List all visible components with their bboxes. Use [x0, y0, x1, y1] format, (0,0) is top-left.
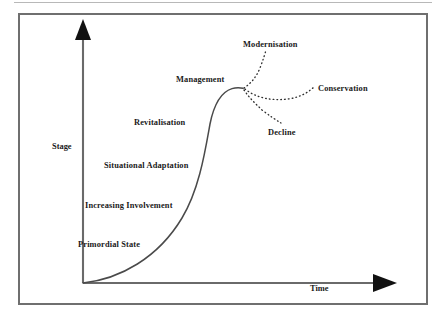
stage-label-management: Management — [176, 76, 224, 84]
branch-modernisation-dotted — [244, 50, 266, 88]
branch-label-modernisation: Modernisation — [243, 41, 298, 49]
x-axis-label: Time — [310, 285, 328, 293]
y-axis-label: Stage — [52, 143, 72, 151]
stage-label-increasing-involvement: Increasing Involvement — [85, 202, 173, 210]
stage-label-primordial-state: Primordial State — [78, 241, 140, 249]
lifecycle-curve — [83, 88, 243, 283]
figure-page: Stage Time Primordial State Increasing I… — [0, 0, 446, 320]
branch-conservation-dotted — [245, 86, 315, 100]
branch-label-conservation: Conservation — [318, 85, 368, 93]
stage-label-situational-adaptation: Situational Adaptation — [104, 162, 189, 170]
diagram-canvas — [0, 0, 446, 320]
branch-decline-dotted — [244, 90, 281, 123]
stage-label-revitalisation: Revitalisation — [134, 119, 185, 127]
branch-label-decline: Decline — [268, 129, 296, 137]
x-axis-arrowhead-icon — [373, 274, 397, 292]
y-axis-arrowhead-icon — [75, 19, 91, 40]
